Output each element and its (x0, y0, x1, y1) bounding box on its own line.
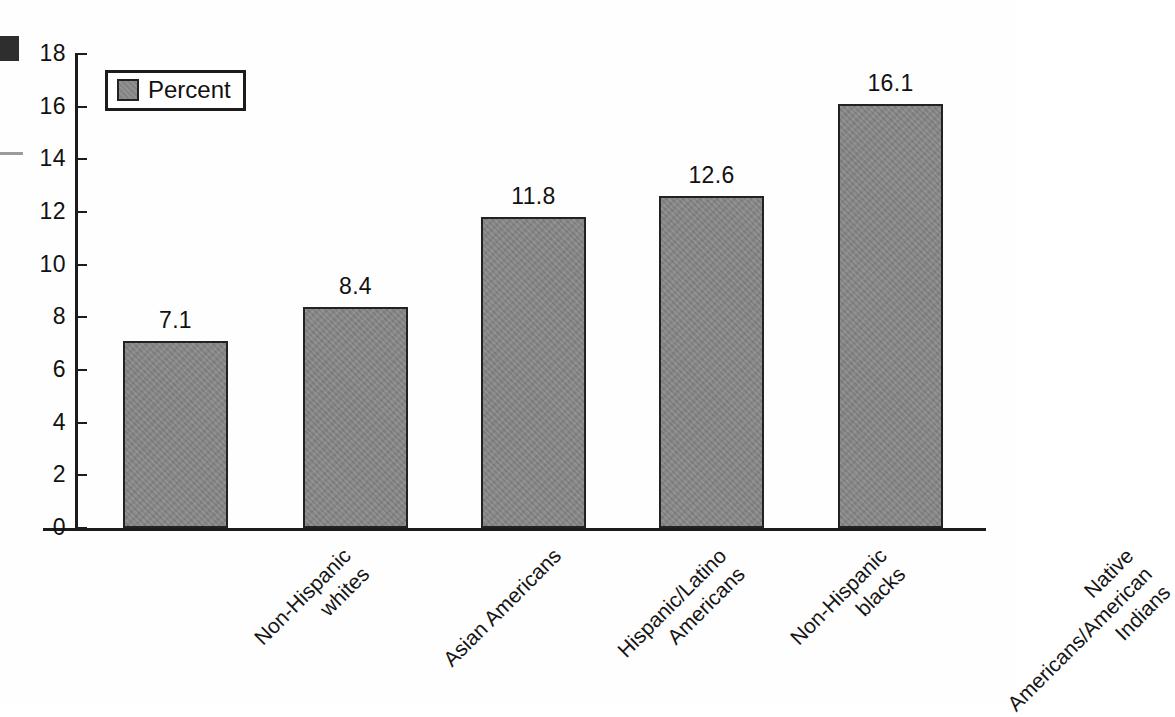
bar-value-label: 7.1 (98, 309, 253, 332)
legend: Percent (105, 70, 246, 111)
x-axis-category-label: Non-Hispanicwhites (249, 543, 375, 669)
y-axis-tick-label: 16 (20, 95, 66, 118)
bar (838, 104, 943, 528)
x-axis-category-label: Asian Americans (438, 543, 567, 672)
y-axis-tick (78, 211, 87, 213)
y-axis-tick-label: 14 (20, 147, 66, 170)
y-axis-tick-label: 2 (20, 463, 66, 486)
y-axis-tick (78, 527, 87, 529)
y-axis-tick (78, 158, 87, 160)
bar (303, 307, 408, 528)
y-axis-tick-label: 12 (20, 200, 66, 223)
scan-artifact-blob (0, 36, 19, 61)
y-axis-line (75, 53, 78, 530)
y-axis-tick (78, 474, 87, 476)
y-axis-tick (78, 316, 87, 318)
y-axis-tick (78, 106, 87, 108)
bar-value-label: 16.1 (813, 72, 968, 95)
x-axis-category-label: NativeAmericans/AmericanIndians (984, 543, 1175, 717)
y-axis-tick-label: 10 (20, 253, 66, 276)
y-axis-tick-label: 8 (20, 305, 66, 328)
y-axis-tick (78, 369, 87, 371)
x-axis-category-label: Hispanic/LatinoAmericans (612, 543, 750, 681)
legend-label: Percent (148, 78, 231, 102)
y-axis-tick-label: 18 (20, 42, 66, 65)
y-axis-tick-label: 4 (20, 411, 66, 434)
y-axis-tick-label: 0 (20, 516, 66, 539)
y-axis-tick (78, 53, 87, 55)
x-axis-category-label: Non-Hispanicblacks (785, 543, 911, 669)
x-axis-line (43, 528, 986, 531)
bar-value-label: 11.8 (456, 185, 611, 208)
y-axis-tick-label: 6 (20, 358, 66, 381)
legend-swatch-icon (117, 79, 139, 101)
bar (123, 341, 228, 528)
x-axis-category-label-line: Asian Americans (438, 543, 567, 672)
y-axis-tick (78, 422, 87, 424)
bar (481, 217, 586, 528)
bar-value-label: 8.4 (278, 275, 433, 298)
bar (659, 196, 764, 528)
y-axis-tick (78, 264, 87, 266)
bar-value-label: 12.6 (634, 164, 789, 187)
